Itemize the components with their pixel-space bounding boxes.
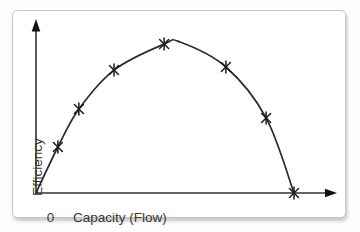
figure-stage: Efficiency Capacity (Flow) 0 bbox=[0, 0, 360, 232]
origin-tick-label: 0 bbox=[44, 211, 57, 225]
figure-card: Efficiency Capacity (Flow) 0 bbox=[12, 10, 346, 218]
x-axis-label: Capacity (Flow) bbox=[73, 211, 163, 225]
y-axis-label: Efficiency bbox=[31, 115, 45, 219]
